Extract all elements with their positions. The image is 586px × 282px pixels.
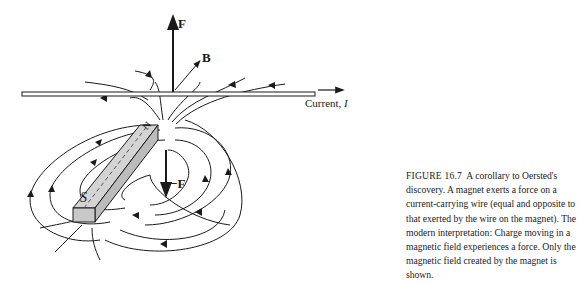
field-lines: [30, 71, 285, 260]
force-label: F: [178, 16, 186, 32]
current-text: Current,: [305, 97, 344, 109]
current-label: Current, I: [305, 97, 348, 109]
figure-caption: FIGURE 16.7 A corollary to Oersted's dis…: [406, 169, 584, 282]
reaction-force-label: −F: [170, 176, 185, 192]
current-symbol: I: [344, 97, 348, 109]
bar-magnet: [73, 125, 158, 222]
caption-text: A corollary to Oersted's discovery. A ma…: [406, 170, 576, 280]
figure-number: FIGURE 16.7: [406, 170, 462, 181]
south-pole-label: S: [80, 190, 87, 206]
field-label: B: [202, 50, 211, 66]
wire: [22, 92, 315, 96]
